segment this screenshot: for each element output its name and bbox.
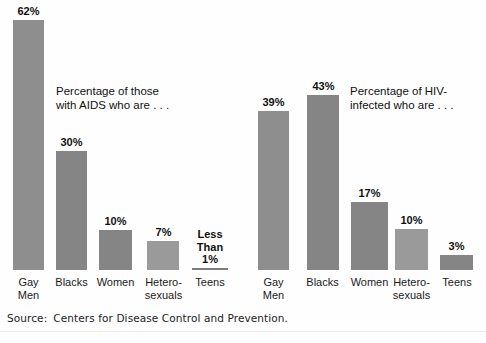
bar-value-right-blacks: 43% [303, 80, 344, 92]
bar-value-left-women: 10% [95, 215, 136, 227]
category-label-right-gay-men: Gay Men [250, 276, 297, 301]
category-label-left-heterosexuals: Hetero- sexuals [139, 276, 188, 301]
bar-value-right-teens: 3% [436, 240, 477, 252]
chart-figure: 62% 30% 10% 7% Less Than 1% Gay Men Blac… [0, 0, 486, 343]
panel-caption-right: Percentage of HIV- infected who are . . … [350, 84, 486, 112]
bar-left-women [99, 230, 132, 270]
category-label-right-heterosexuals: Hetero- sexuals [387, 276, 436, 301]
category-label-left-women: Women [92, 276, 139, 289]
bar-left-teens [192, 268, 228, 270]
category-label-right-blacks: Blacks [299, 276, 346, 289]
bar-left-blacks [56, 151, 87, 270]
bar-value-left-heterosexuals: 7% [143, 226, 184, 238]
bar-right-gay-men [258, 111, 289, 270]
bar-left-heterosexuals [147, 241, 179, 270]
source-note: Source:Centers for Disease Control and P… [7, 312, 288, 324]
bar-right-blacks [307, 95, 339, 270]
bar-value-left-gay-men: 62% [8, 5, 49, 17]
bottom-divider [0, 331, 486, 332]
bar-value-left-teens: Less Than 1% [188, 228, 232, 266]
panel-caption-left: Percentage of those with AIDS who are . … [56, 84, 206, 112]
bar-value-right-heterosexuals: 10% [391, 214, 432, 226]
bar-right-heterosexuals [395, 229, 428, 270]
category-label-left-blacks: Blacks [48, 276, 95, 289]
category-label-left-teens: Teens [186, 276, 234, 289]
category-label-left-gay-men: Gay Men [5, 276, 52, 301]
category-label-right-women: Women [346, 276, 393, 289]
bar-left-gay-men [13, 20, 44, 270]
source-text: Centers for Disease Control and Preventi… [53, 312, 288, 324]
source-label: Source: [7, 312, 47, 324]
category-label-right-teens: Teens [433, 276, 481, 289]
bar-value-right-women: 17% [349, 187, 390, 199]
bar-value-right-gay-men: 39% [253, 96, 294, 108]
bar-right-teens [440, 255, 473, 270]
bar-value-left-blacks: 30% [51, 136, 92, 148]
bar-right-women [351, 202, 388, 270]
